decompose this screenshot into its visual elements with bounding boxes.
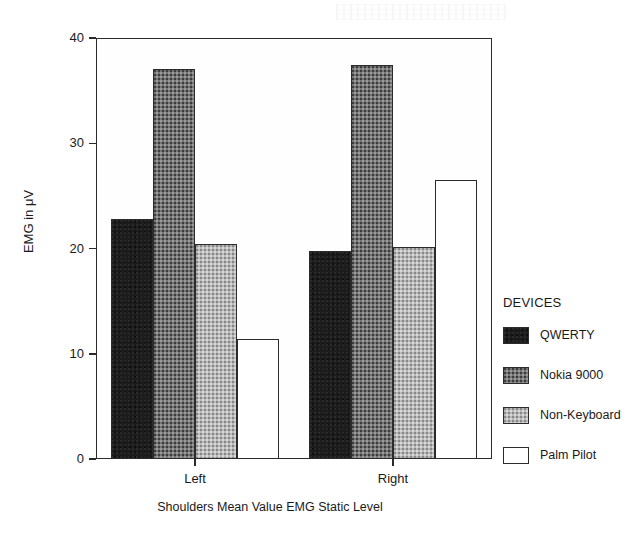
bar-left-qwerty bbox=[111, 219, 153, 459]
legend-item-non-keyboard: Non-Keyboard bbox=[503, 404, 641, 426]
y-tick-label: 30 bbox=[70, 134, 84, 152]
y-tick-mark bbox=[89, 353, 96, 355]
bar-right-non-keyboard bbox=[393, 247, 435, 459]
y-tick-mark bbox=[89, 458, 96, 460]
y-axis-title: EMG in μV bbox=[21, 132, 36, 312]
bar-right-nokia-9000 bbox=[351, 65, 393, 459]
bar-right-qwerty bbox=[309, 251, 351, 459]
legend-item-label: QWERTY bbox=[540, 328, 595, 342]
y-tick-label: 0 bbox=[77, 450, 84, 468]
legend-swatch-icon bbox=[503, 367, 529, 384]
bar-left-non-keyboard bbox=[195, 244, 237, 459]
y-tick-mark bbox=[89, 143, 96, 145]
legend-item-palm-pilot: Palm Pilot bbox=[503, 444, 641, 466]
legend-item-label: Nokia 9000 bbox=[540, 368, 603, 382]
legend-item-label: Non-Keyboard bbox=[540, 408, 621, 422]
bar-left-palm-pilot bbox=[237, 339, 279, 459]
y-tick-mark bbox=[89, 248, 96, 250]
y-tick-mark bbox=[89, 37, 96, 39]
legend-item-qwerty: QWERTY bbox=[503, 324, 641, 346]
y-tick-label: 40 bbox=[70, 29, 84, 47]
legend-swatch-icon bbox=[503, 447, 529, 464]
x-tick-label: Right bbox=[333, 471, 453, 486]
emg-bar-chart-figure: 40 30 20 10 0 EMG in μV Left Right Shoul… bbox=[0, 0, 644, 539]
x-tick-label: Left bbox=[135, 471, 255, 486]
x-tick-mark bbox=[194, 459, 196, 466]
legend-swatch-icon bbox=[503, 327, 529, 344]
y-tick-label: 20 bbox=[70, 240, 84, 258]
x-tick-mark bbox=[392, 459, 394, 466]
legend-swatch-icon bbox=[503, 407, 529, 424]
y-tick-label: 10 bbox=[70, 345, 84, 363]
bar-right-palm-pilot bbox=[435, 180, 477, 459]
legend: DEVICES QWERTY Nokia 9000 Non-Keyboard P… bbox=[503, 295, 641, 484]
bars-layer bbox=[96, 38, 492, 459]
scan-artifact bbox=[336, 4, 506, 20]
bar-left-nokia-9000 bbox=[153, 69, 195, 459]
legend-item-nokia-9000: Nokia 9000 bbox=[503, 364, 641, 386]
legend-title: DEVICES bbox=[503, 295, 641, 310]
figure-caption: Shoulders Mean Value EMG Static Level bbox=[0, 500, 540, 514]
legend-item-label: Palm Pilot bbox=[540, 448, 596, 462]
